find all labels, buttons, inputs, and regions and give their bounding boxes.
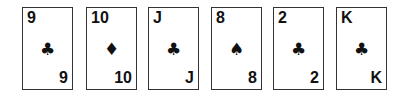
card-rank-top: 10 <box>91 10 109 26</box>
card-rank-top: 2 <box>278 10 287 26</box>
card-rank-bottom: K <box>370 70 382 86</box>
card-rank-top: J <box>153 10 162 26</box>
spades-icon: ♠ <box>229 40 244 57</box>
diamonds-icon: ♦ <box>104 40 119 57</box>
playing-card-8-spades[interactable]: 8 ♠ 8 <box>211 7 262 90</box>
playing-card-k-clubs[interactable]: K ♣ K <box>336 7 387 90</box>
card-rank-bottom: 9 <box>59 70 68 86</box>
playing-card-j-clubs[interactable]: J ♣ J <box>148 7 199 90</box>
clubs-icon: ♣ <box>166 40 181 57</box>
card-rank-bottom: 8 <box>248 70 257 86</box>
card-rank-top: 8 <box>216 10 225 26</box>
clubs-icon: ♣ <box>354 40 369 57</box>
card-rank-bottom: 10 <box>114 70 132 86</box>
clubs-icon: ♣ <box>40 40 55 57</box>
clubs-icon: ♣ <box>291 40 306 57</box>
card-rank-top: K <box>341 10 353 26</box>
playing-card-10-diamonds[interactable]: 10 ♦ 10 <box>86 7 137 90</box>
card-rank-top: 9 <box>27 10 36 26</box>
playing-card-2-clubs[interactable]: 2 ♣ 2 <box>273 7 324 90</box>
card-rank-bottom: 2 <box>310 70 319 86</box>
playing-card-9-clubs[interactable]: 9 ♣ 9 <box>22 7 73 90</box>
card-rank-bottom: J <box>185 70 194 86</box>
